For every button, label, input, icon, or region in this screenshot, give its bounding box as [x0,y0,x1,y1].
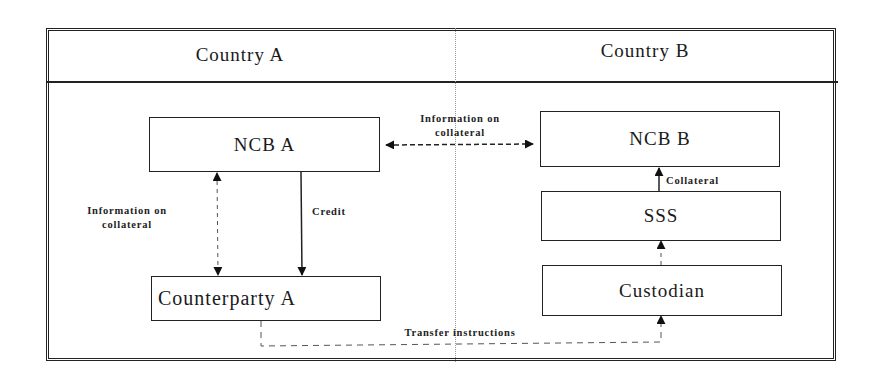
label-info-vertical-line1: Information on [72,204,182,218]
arrow-credit [301,172,302,275]
label-info-horizontal: Information on collateral [386,112,534,140]
connector-layer [0,0,883,377]
label-collateral: Collateral [666,174,746,188]
label-info-horizontal-line1: Information on [386,112,534,126]
label-info-vertical-line2: collateral [72,218,182,232]
arrow-ncb-a-counterparty-info [217,173,218,275]
arrow-ncb-a-ncb-b-info [386,144,533,145]
label-transfer-instructions: Transfer instructions [375,326,545,340]
label-credit: Credit [312,205,362,219]
label-info-vertical: Information on collateral [72,204,182,232]
label-info-horizontal-line2: collateral [386,126,534,140]
